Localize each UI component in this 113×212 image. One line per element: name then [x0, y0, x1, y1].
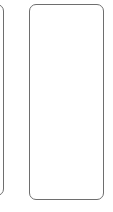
card-carousel [0, 0, 113, 212]
previous-card[interactable] [0, 4, 4, 196]
current-card[interactable] [29, 4, 104, 200]
